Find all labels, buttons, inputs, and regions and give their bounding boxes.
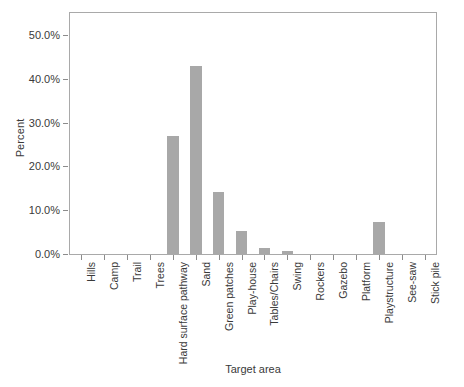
- x-axis-tick-label-text: Play-house: [246, 262, 258, 315]
- x-axis-tick-label: Hard surface pathway: [177, 262, 189, 364]
- x-axis-tick-label: Camp: [108, 262, 120, 290]
- x-axis-tick-label: Trees: [154, 262, 166, 288]
- y-axis-tick-label: 20.0%: [16, 160, 60, 172]
- x-axis-tick-label: Play-house: [246, 262, 258, 315]
- y-axis-tick-label: 0.0%: [16, 248, 60, 260]
- x-axis-tick-label-text: Camp: [108, 262, 120, 290]
- y-axis-tick-mark: [63, 35, 68, 36]
- bar-slot: [282, 13, 293, 254]
- bar-chart-figure: Percent 0.0%10.0%20.0%30.0%40.0%50.0% Hi…: [0, 0, 464, 387]
- x-axis-tick-marks: [70, 255, 436, 261]
- x-axis-tick-label: Green patches: [223, 262, 235, 331]
- bar-slot: [167, 13, 178, 254]
- bar-slot: [373, 13, 384, 254]
- x-axis-tick-mark: [150, 255, 151, 260]
- x-axis-tick-mark: [379, 255, 380, 260]
- x-axis-tick-label: Rockers: [314, 262, 326, 301]
- x-axis-tick-mark: [402, 255, 403, 260]
- x-axis-tick-label-text: Swing: [291, 262, 303, 291]
- bar-slot: [419, 13, 430, 254]
- bar-slot: [99, 13, 110, 254]
- bar-slot: [327, 13, 338, 254]
- y-axis-tick-mark: [63, 254, 68, 255]
- x-axis-tick-mark: [310, 255, 311, 260]
- x-axis-tick-mark: [425, 255, 426, 260]
- x-axis-tick-label: Playstructure: [383, 262, 395, 323]
- x-axis-tick-label-text: Stick pile: [429, 262, 441, 304]
- bar-slot: [213, 13, 224, 254]
- x-axis-tick-label-text: Green patches: [223, 262, 235, 331]
- y-axis-tick-mark: [63, 166, 68, 167]
- x-axis-tick-label-text: Sand: [200, 262, 212, 287]
- y-axis-tick-label: 40.0%: [16, 73, 60, 85]
- y-axis-tick-label: 30.0%: [16, 117, 60, 129]
- bar: [282, 251, 293, 254]
- bar: [190, 66, 201, 254]
- x-axis-tick-mark: [173, 255, 174, 260]
- y-axis-tick-mark: [63, 79, 68, 80]
- bar-slot: [259, 13, 270, 254]
- bar: [373, 222, 384, 254]
- bars-layer: [70, 13, 436, 254]
- x-axis-tick-mark: [104, 255, 105, 260]
- x-axis-tick-mark: [127, 255, 128, 260]
- x-axis-tick-label-text: Playstructure: [383, 262, 395, 323]
- x-axis-title: Target area: [69, 363, 437, 375]
- x-axis-tick-label: Stick pile: [429, 262, 441, 304]
- x-axis-tick-mark: [333, 255, 334, 260]
- x-axis-tick-label: Hills: [85, 262, 97, 282]
- x-axis-tick-mark: [219, 255, 220, 260]
- bar-slot: [121, 13, 132, 254]
- x-axis-tick-mark: [242, 255, 243, 260]
- x-axis-tick-label-text: Platform: [360, 262, 372, 301]
- y-axis-tick-mark: [63, 210, 68, 211]
- x-axis-tick-mark: [287, 255, 288, 260]
- x-axis-tick-label-text: Hard surface pathway: [177, 262, 189, 364]
- x-axis-tick-mark: [81, 255, 82, 260]
- bar: [259, 248, 270, 254]
- bar-slot: [236, 13, 247, 254]
- x-axis-tick-mark: [264, 255, 265, 260]
- x-axis-tick-label: Platform: [360, 262, 372, 301]
- y-axis-tick-label: 10.0%: [16, 204, 60, 216]
- x-axis-tick-label-text: Trail: [131, 262, 143, 282]
- bar-slot: [76, 13, 87, 254]
- x-axis-tick-label: Sand: [200, 262, 212, 287]
- bar-slot: [350, 13, 361, 254]
- bar: [213, 192, 224, 254]
- y-axis-tick-label: 50.0%: [16, 29, 60, 41]
- bar-slot: [304, 13, 315, 254]
- x-axis-tick-label-text: Rockers: [314, 262, 326, 301]
- bar-slot: [144, 13, 155, 254]
- x-axis-tick-label-text: See-saw: [406, 262, 418, 303]
- x-axis-tick-label-text: Trees: [154, 262, 166, 288]
- bar-slot: [396, 13, 407, 254]
- bar-slot: [190, 13, 201, 254]
- bar: [167, 136, 178, 254]
- bar: [236, 231, 247, 254]
- x-axis-tick-label-text: Tables/Chairs: [268, 262, 280, 326]
- x-axis-tick-label: See-saw: [406, 262, 418, 303]
- x-axis-tick-labels: HillsCampTrailTreesHard surface pathwayS…: [70, 262, 436, 362]
- x-axis-tick-label-text: Gazebo: [337, 262, 349, 299]
- y-axis-tick-mark: [63, 123, 68, 124]
- x-axis-tick-label: Trail: [131, 262, 143, 282]
- x-axis-tick-label: Swing: [291, 262, 303, 291]
- x-axis-tick-mark: [196, 255, 197, 260]
- x-axis-tick-label: Tables/Chairs: [268, 262, 280, 326]
- x-axis-tick-label: Gazebo: [337, 262, 349, 299]
- x-axis-tick-mark: [356, 255, 357, 260]
- x-axis-tick-label-text: Hills: [85, 262, 97, 282]
- y-axis-tick-labels: 0.0%10.0%20.0%30.0%40.0%50.0%: [24, 10, 68, 260]
